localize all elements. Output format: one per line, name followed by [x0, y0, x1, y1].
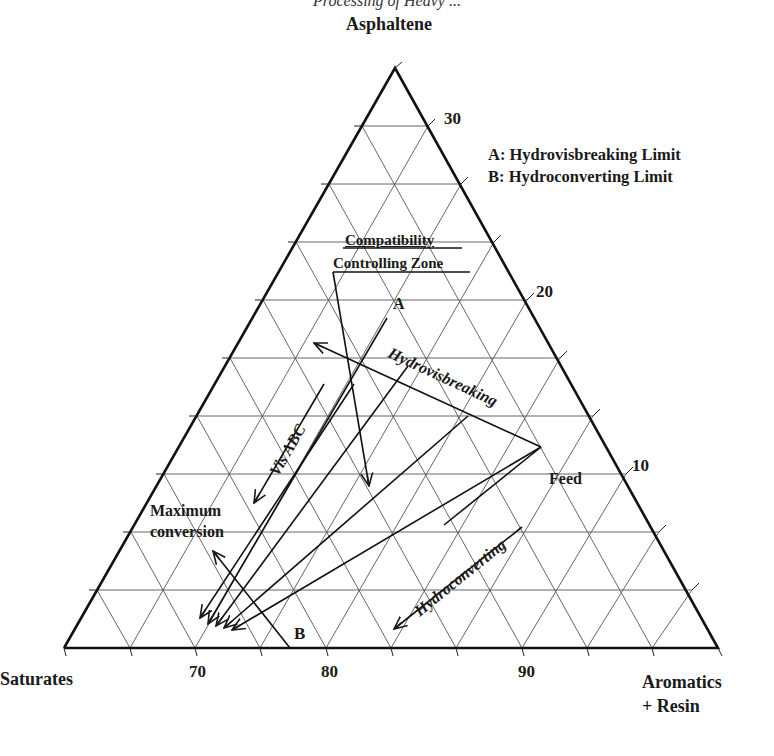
vertex-label-asphaltene: Asphaltene: [346, 14, 432, 34]
ternary-diagram: [0, 0, 774, 756]
process-arrows: [200, 248, 541, 648]
tick-asphaltene-20: 20: [536, 282, 553, 302]
vertex-label-saturates: Saturates: [0, 669, 73, 689]
feed-label: Feed: [549, 469, 582, 489]
tick-asphaltene-10: 10: [632, 456, 649, 476]
point-label-a: A: [393, 294, 405, 314]
point-label-b: B: [294, 624, 305, 644]
zone-label-line2: Controlling Zone: [333, 253, 443, 273]
legend-item-a: A: Hydrovisbreaking Limit: [488, 144, 681, 166]
grid: [97, 126, 692, 648]
tick-bottom-80: 80: [321, 662, 338, 682]
max-conversion-line1: Maximum: [150, 501, 221, 521]
tick-bottom-90: 90: [518, 662, 535, 682]
legend: A: Hydrovisbreaking Limit B: Hydroconver…: [488, 144, 681, 188]
tick-asphaltene-30: 30: [444, 109, 461, 129]
vertex-label-aromatics: Aromatics: [642, 672, 722, 692]
vertex-label-resin: + Resin: [642, 696, 700, 716]
tick-bottom-70: 70: [189, 662, 206, 682]
max-conversion-line2: conversion: [150, 522, 224, 542]
zone-label-line1: Compatibility: [345, 230, 434, 250]
legend-item-b: B: Hydroconverting Limit: [488, 166, 681, 188]
